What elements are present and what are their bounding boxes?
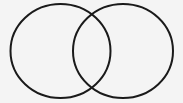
venn-diagram — [0, 0, 183, 103]
